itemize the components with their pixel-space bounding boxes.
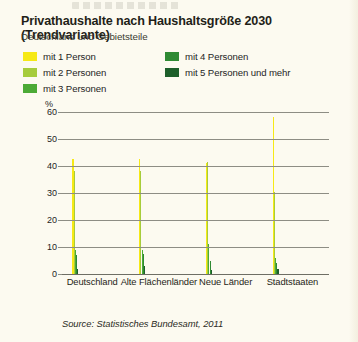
x-axis-baseline: [62, 274, 329, 275]
legend-swatch-icon: [23, 52, 37, 61]
axis-area: 0102030405060: [62, 112, 329, 274]
plot-area: % 0102030405060 DeutschlandAlte Flächenl…: [21, 100, 339, 296]
legend-item: mit 1 Person: [23, 49, 106, 64]
gridline: [62, 139, 329, 140]
legend-item: mit 4 Personen: [165, 49, 290, 64]
y-axis-tick-mark: [58, 247, 62, 248]
gridline: [62, 193, 329, 194]
gridline: [62, 166, 329, 167]
y-axis-tick-label: 30: [47, 189, 57, 198]
legend-item-label: mit 4 Personen: [185, 51, 248, 62]
y-axis-tick-label: 40: [47, 162, 57, 171]
legend-column-right: mit 4 Personenmit 5 Personen und mehr: [165, 49, 290, 81]
y-axis-tick-mark: [58, 193, 62, 194]
legend-item: mit 2 Personen: [23, 65, 106, 80]
x-axis-tick-label: Neue Länder: [199, 276, 252, 287]
figure-page: Privathaushalte nach Haushaltsgröße 2030…: [0, 0, 358, 342]
y-axis-tick-mark: [58, 139, 62, 140]
y-axis-tick-mark: [58, 112, 62, 113]
x-axis-labels: DeutschlandAlte FlächenländerNeue Länder…: [62, 276, 329, 292]
y-axis-tick-label: 0: [52, 270, 57, 279]
x-axis-tick-label: Deutschland: [67, 276, 118, 287]
y-axis-tick-mark: [58, 166, 62, 167]
y-axis-tick-label: 20: [47, 216, 57, 225]
y-axis-tick-label: 50: [47, 135, 57, 144]
legend-item: mit 5 Personen und mehr: [165, 65, 290, 80]
bar: [144, 266, 145, 274]
legend-item: mit 3 Personen: [23, 81, 106, 96]
y-axis-tick-label: 60: [47, 108, 57, 117]
chart-subtitle: Deutschland und Gebietsteile: [21, 31, 148, 42]
legend-item-label: mit 5 Personen und mehr: [185, 67, 290, 78]
source-note: Source: Statistisches Bundesamt, 2011: [62, 318, 223, 329]
x-axis-tick-label: Stadtstaaten: [267, 276, 318, 287]
legend-swatch-icon: [23, 84, 37, 93]
gridline: [62, 112, 329, 113]
legend-swatch-icon: [23, 68, 37, 77]
gridline: [62, 220, 329, 221]
legend-item-label: mit 1 Person: [43, 51, 96, 62]
cropped-caption-remnant: [72, 2, 182, 9]
legend-item-label: mit 2 Personen: [43, 67, 106, 78]
x-axis-tick-label: Alte Flächenländer: [121, 276, 197, 287]
y-axis-tick-mark: [58, 274, 62, 275]
y-axis-tick-mark: [58, 220, 62, 221]
legend-item-label: mit 3 Personen: [43, 83, 106, 94]
y-axis-tick-label: 10: [47, 243, 57, 252]
legend-column-left: mit 1 Personmit 2 Personenmit 3 Personen: [23, 49, 106, 97]
gridline: [62, 247, 329, 248]
legend-swatch-icon: [165, 68, 179, 77]
legend-swatch-icon: [165, 52, 179, 61]
